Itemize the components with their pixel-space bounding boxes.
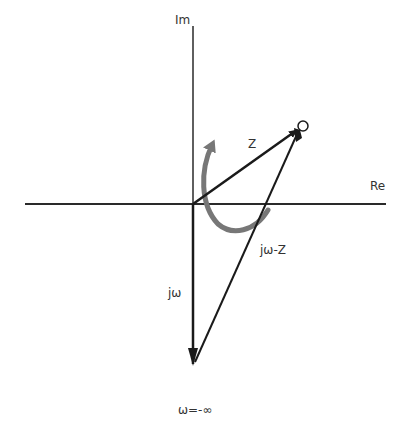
zero-marker [298, 121, 308, 131]
imaginary-axis-label: Im [175, 13, 190, 27]
complex-plane-diagram: Im Re Z jω-Z jω ω=-∞ [0, 0, 404, 440]
jw-label: jω [167, 286, 181, 300]
omega-neg-infinity-label: ω=-∞ [178, 403, 212, 417]
z-label: Z [248, 137, 256, 151]
jw-minus-z-label: jω-Z [259, 243, 286, 257]
real-axis-label: Re [370, 179, 385, 193]
